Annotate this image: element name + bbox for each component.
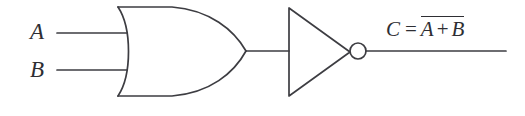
output-expression-label: C = A+B — [386, 16, 464, 40]
inverter-triangle — [289, 8, 350, 96]
complemented-expression: A+B — [421, 16, 465, 40]
inverter-bubble-icon — [350, 43, 366, 59]
input-label-a: A — [30, 20, 44, 43]
input-label-b: B — [30, 58, 44, 81]
or-gate-bottom-edge — [118, 51, 246, 96]
output-variable: C — [386, 19, 400, 40]
logic-diagram-figure: A B C = A+B — [0, 0, 525, 116]
plus-operator: + — [437, 17, 449, 41]
or-gate-back-edge — [118, 7, 129, 96]
or-gate-top-edge — [118, 7, 246, 51]
equals-sign: = — [405, 19, 417, 40]
operand-a: A — [421, 17, 434, 41]
operand-b: B — [452, 17, 465, 41]
